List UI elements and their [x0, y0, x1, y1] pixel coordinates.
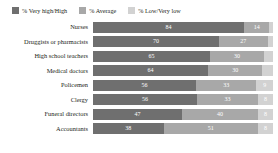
bar-segment-very-high-high: 56	[93, 94, 197, 105]
chart-row: Policemen56339	[0, 78, 278, 92]
bar-segment-low-very-low: 8	[258, 94, 273, 105]
bar-value-label: 40	[217, 111, 223, 118]
category-label: Druggists or pharmacists	[0, 38, 93, 46]
chart-plot-area: Nurses8414Druggists or pharmacists7027Hi…	[0, 20, 278, 153]
legend-item-very-high-high: % Very high/High	[12, 7, 67, 14]
bar-value-label: 47	[135, 111, 141, 118]
bar-segment-average: 33	[196, 80, 257, 91]
bar-track: 38518	[93, 123, 273, 134]
bar-segment-low-very-low: 8	[258, 123, 273, 134]
category-label: Policemen	[0, 81, 93, 89]
bar-value-label: 65	[149, 53, 155, 60]
chart-legend: % Very high/High % Average % Low/Very lo…	[0, 0, 278, 16]
chart-row: Medical doctors6430	[0, 64, 278, 78]
bar-segment-very-high-high: 84	[93, 22, 244, 33]
stacked-bar-chart: % Very high/High % Average % Low/Very lo…	[0, 0, 278, 153]
legend-label: % Very high/High	[22, 7, 67, 14]
chart-row: Clergy56338	[0, 93, 278, 107]
bar-segment-average: 40	[182, 109, 258, 120]
bar-segment-very-high-high: 64	[93, 65, 208, 76]
chart-row: Nurses8414	[0, 20, 278, 34]
bar-value-label: 33	[223, 82, 229, 89]
bar-segment-average: 30	[210, 51, 264, 62]
category-label: Accountants	[0, 125, 93, 133]
bar-segment-very-high-high: 56	[93, 80, 196, 91]
category-label: Nurses	[0, 23, 93, 31]
category-label: Funeral directors	[0, 110, 93, 118]
chart-row: Funeral directors47408	[0, 107, 278, 121]
chart-row: High school teachers6530	[0, 49, 278, 63]
bar-segment-very-high-high: 70	[93, 36, 219, 47]
legend-swatch-icon	[12, 7, 19, 14]
bar-value-label: 70	[153, 38, 159, 45]
bar-track: 56338	[93, 94, 273, 105]
legend-swatch-icon	[128, 7, 135, 14]
bar-track: 8414	[93, 22, 273, 33]
bar-value-label: 56	[141, 82, 147, 89]
bar-segment-average: 30	[208, 65, 262, 76]
legend-swatch-icon	[79, 7, 86, 14]
bar-value-label: 84	[166, 24, 172, 31]
bar-value-label: 8	[264, 125, 267, 132]
chart-row: Accountants38518	[0, 122, 278, 136]
bar-segment-average: 51	[164, 123, 259, 134]
bar-segment-low-very-low: 8	[258, 109, 273, 120]
bar-value-label: 51	[208, 125, 214, 132]
legend-label: % Low/Very low	[138, 7, 181, 14]
bar-track: 7027	[93, 36, 273, 47]
bar-value-label: 56	[142, 96, 148, 103]
bar-value-label: 27	[240, 38, 246, 45]
bar-track: 56339	[93, 80, 273, 91]
bar-value-label: 8	[264, 111, 267, 118]
bar-segment-low-very-low	[269, 22, 273, 33]
bar-value-label: 38	[125, 125, 131, 132]
bar-track: 6430	[93, 65, 273, 76]
bar-track: 6530	[93, 51, 273, 62]
bar-segment-low-very-low	[262, 65, 273, 76]
bar-value-label: 9	[263, 82, 266, 89]
category-label: Clergy	[0, 96, 93, 104]
bar-segment-low-very-low	[264, 51, 273, 62]
bar-segment-low-very-low	[268, 36, 273, 47]
legend-label: % Average	[89, 7, 116, 14]
bar-value-label: 64	[148, 67, 154, 74]
bar-segment-low-very-low: 9	[256, 80, 273, 91]
legend-item-average: % Average	[79, 7, 116, 14]
bar-track: 47408	[93, 109, 273, 120]
bar-segment-average: 33	[197, 94, 258, 105]
category-label: Medical doctors	[0, 67, 93, 75]
bar-segment-very-high-high: 65	[93, 51, 210, 62]
bar-value-label: 8	[264, 96, 267, 103]
bar-segment-average: 14	[244, 22, 269, 33]
category-label: High school teachers	[0, 52, 93, 60]
legend-item-low-very-low: % Low/Very low	[128, 7, 181, 14]
bar-segment-average: 27	[219, 36, 268, 47]
bar-value-label: 30	[232, 67, 238, 74]
bar-value-label: 14	[254, 24, 260, 31]
bar-segment-very-high-high: 38	[93, 123, 164, 134]
bar-segment-very-high-high: 47	[93, 109, 182, 120]
bar-value-label: 30	[234, 53, 240, 60]
chart-row: Druggists or pharmacists7027	[0, 35, 278, 49]
bar-value-label: 33	[225, 96, 231, 103]
